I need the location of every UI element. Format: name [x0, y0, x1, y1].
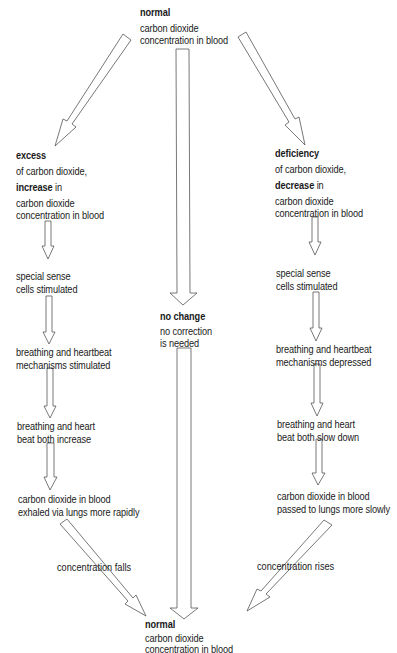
node-emph-line: increase in — [16, 182, 104, 195]
node-subtitle: of carbon dioxide, — [275, 164, 363, 177]
node-title: deficiency — [275, 148, 363, 161]
node-right-step-3: breathing and heart beat both slow down — [277, 419, 359, 444]
node-text-line: beat both increase — [17, 434, 95, 447]
node-title: normal — [140, 7, 228, 20]
node-bottom-normal: normal carbon dioxide concentration in b… — [145, 619, 233, 653]
node-excess: excess of carbon dioxide, increase in ca… — [16, 150, 104, 223]
node-text-line: carbon dioxide in blood — [277, 491, 390, 504]
node-no-change: no change no correction is needed — [160, 311, 212, 351]
node-text-line: cells stimulated — [16, 284, 77, 297]
node-text-line: beat both slow down — [277, 432, 359, 445]
node-text-line: carbon dioxide in blood — [18, 494, 140, 507]
label-concentration-falls: concentration falls — [57, 562, 131, 574]
co2-regulation-diagram: normal carbon dioxide concentration in b… — [0, 0, 397, 653]
node-text-line: breathing and heart — [277, 419, 359, 432]
node-left-step-1: special sense cells stimulated — [16, 271, 77, 296]
node-right-step-4: carbon dioxide in blood passed to lungs … — [277, 491, 390, 516]
arrow-right-step-3 — [311, 364, 323, 416]
arrow-normal-to-deficiency — [238, 32, 305, 145]
node-text-line: breathing and heartbeat — [16, 347, 112, 360]
node-text-line: carbon dioxide — [145, 633, 233, 644]
node-right-step-2: breathing and heartbeat mechanisms depre… — [276, 344, 372, 369]
node-deficiency: deficiency of carbon dioxide, decrease i… — [275, 148, 363, 221]
node-top-normal: normal carbon dioxide concentration in b… — [140, 7, 228, 48]
node-title: no change — [160, 311, 212, 324]
node-left-step-2: breathing and heartbeat mechanisms stimu… — [16, 347, 112, 372]
node-emph-line: decrease in — [275, 180, 363, 193]
node-text-line: concentration in blood — [140, 35, 228, 48]
node-right-step-1: special sense cells stimulated — [276, 268, 337, 293]
node-text-line: concentration in blood — [16, 210, 104, 223]
arrow-right-step-1 — [309, 217, 321, 255]
node-title: normal — [145, 619, 233, 632]
node-text-line: special sense — [16, 271, 77, 284]
node-text-line: breathing and heartbeat — [276, 344, 372, 357]
node-text-line: exhaled via lungs more rapidly — [18, 507, 140, 520]
node-text-line: carbon dioxide — [140, 23, 228, 36]
node-emph: increase — [16, 182, 53, 193]
node-subtitle: of carbon dioxide, — [16, 166, 104, 179]
node-text-line: cells stimulated — [276, 281, 337, 294]
arrow-right-step-4 — [312, 439, 325, 485]
arrow-normal-to-no-change — [170, 49, 197, 305]
node-left-step-4: carbon dioxide in blood exhaled via lung… — [18, 494, 140, 519]
node-title: excess — [16, 150, 104, 163]
arrow-left-step-4 — [44, 443, 57, 490]
arrow-left-step-3 — [44, 368, 56, 418]
node-left-step-3: breathing and heart beat both increase — [17, 421, 95, 446]
node-text-line: breathing and heart — [17, 421, 95, 434]
node-text-line: mechanisms depressed — [276, 357, 372, 370]
arrow-right-step-2 — [310, 292, 322, 341]
label-concentration-rises: concentration rises — [257, 561, 334, 573]
node-text-line: passed to lungs more slowly — [277, 504, 390, 517]
node-text-line: mechanisms stimulated — [16, 360, 112, 373]
node-text-line: special sense — [276, 268, 337, 281]
arrow-no-change-to-normal — [170, 348, 198, 619]
node-emph-suffix: in — [314, 180, 323, 191]
node-emph-suffix: in — [53, 182, 62, 193]
node-emph: decrease — [275, 180, 314, 191]
node-text-line: concentration in blood — [275, 208, 363, 221]
node-text-line: carbon dioxide — [16, 198, 104, 211]
node-text-line: concentration in blood — [145, 644, 233, 653]
arrow-normal-to-excess — [55, 34, 131, 146]
node-text-line: no correction — [160, 326, 212, 339]
arrow-left-step-2 — [43, 296, 55, 344]
node-text-line: carbon dioxide — [275, 196, 363, 209]
arrow-left-step-1 — [42, 221, 54, 259]
node-text-line: is needed — [160, 338, 212, 351]
